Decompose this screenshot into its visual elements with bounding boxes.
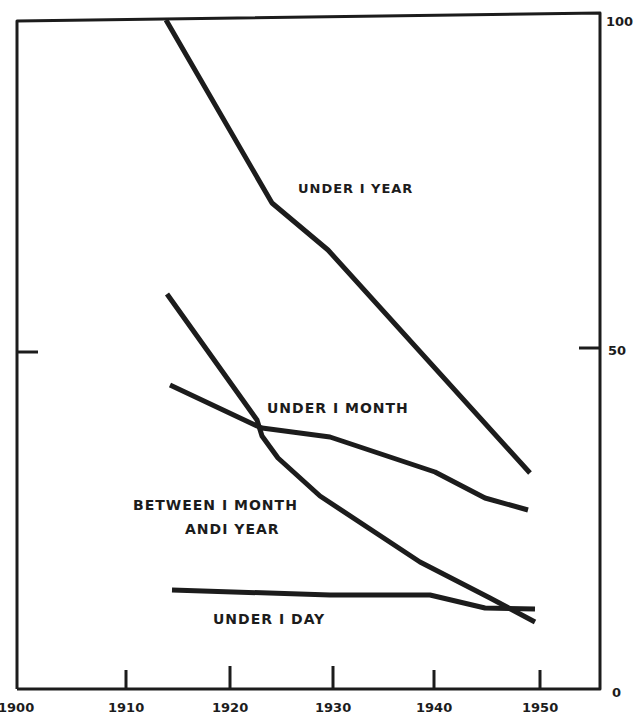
line-between-1-month-and-1-year: [167, 294, 535, 622]
x-tick-1900: 1900: [0, 700, 34, 715]
label-under-1-month: UNDER I MONTH: [267, 400, 409, 416]
x-axis-ticks: [126, 666, 540, 689]
chart: 1900 1910 1920 1930 1940 1950 100 50 0 U…: [0, 0, 642, 726]
label-between-line-1: BETWEEN I MONTH: [133, 497, 298, 513]
plot-frame: [17, 13, 600, 689]
x-axis-labels: 1900 1910 1920 1930 1940 1950: [0, 700, 558, 715]
y-tick-50: 50: [608, 343, 626, 358]
label-between-line-2: ANDI YEAR: [185, 521, 280, 537]
label-under-1-year: UNDER I YEAR: [298, 181, 413, 196]
label-under-1-day: UNDER I DAY: [213, 611, 325, 627]
y-tick-0: 0: [612, 685, 621, 700]
x-tick-1930: 1930: [315, 700, 351, 715]
x-tick-1940: 1940: [416, 700, 452, 715]
x-tick-1910: 1910: [108, 700, 144, 715]
y-tick-100: 100: [606, 14, 633, 29]
y-axis-ticks: [17, 348, 600, 352]
x-tick-1920: 1920: [212, 700, 248, 715]
y-axis-labels: 100 50 0: [606, 14, 633, 700]
x-tick-1950: 1950: [522, 700, 558, 715]
